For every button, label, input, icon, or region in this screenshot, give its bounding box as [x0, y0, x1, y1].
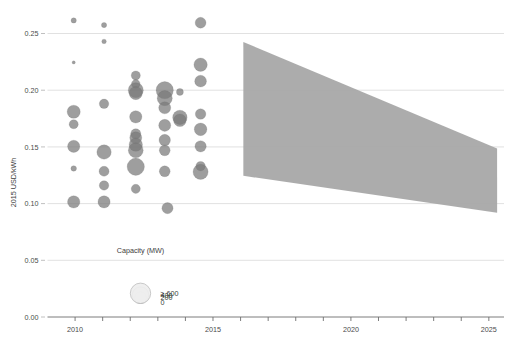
legend-bubble-3 [130, 283, 150, 303]
data-bubble [195, 75, 207, 87]
y-tick-label-0.25: 0.25 [25, 29, 39, 38]
data-bubble [162, 203, 173, 214]
legend-title: Capacity (MW) [117, 246, 165, 255]
data-bubble [99, 166, 109, 176]
data-bubble [128, 143, 143, 158]
x-tick-label-2025: 2025 [481, 325, 497, 334]
projection-band-area [243, 42, 497, 213]
data-bubble [127, 158, 144, 175]
data-bubble [99, 99, 109, 109]
x-axis: 2010201520202025 [48, 317, 505, 334]
y-tick-label-0.20: 0.20 [25, 86, 39, 95]
data-bubble [98, 196, 110, 208]
data-bubble [99, 181, 109, 191]
data-bubble [129, 86, 142, 99]
data-bubble [102, 39, 107, 44]
bubble-chart: 2010201520202025 0.000.050.100.150.200.2… [0, 0, 512, 358]
x-tick-label-2020: 2020 [343, 325, 359, 334]
data-bubble [195, 141, 206, 152]
size-legend: Capacity (MW)0200400≥ 600 [117, 246, 179, 308]
x-tick-label-2010: 2010 [67, 325, 83, 334]
bubble-layer [67, 17, 208, 213]
data-bubble [101, 22, 106, 27]
x-tick-label-2015: 2015 [205, 325, 221, 334]
data-bubble [68, 196, 80, 208]
data-bubble [159, 134, 170, 145]
data-bubble [131, 71, 140, 80]
projection-band [243, 42, 497, 213]
data-bubble [71, 166, 77, 172]
data-bubble [195, 109, 206, 120]
legend-label-3: ≥ 600 [161, 289, 179, 298]
data-bubble [159, 145, 170, 156]
data-bubble [174, 114, 187, 127]
data-bubble [131, 184, 140, 193]
chart-page: 2010201520202025 0.000.050.100.150.200.2… [0, 0, 512, 358]
data-bubble [71, 18, 76, 23]
data-bubble [130, 111, 142, 123]
data-bubble [195, 17, 206, 28]
y-axis-labels: 0.000.050.100.150.200.25 [25, 29, 46, 321]
y-tick-label-0.00: 0.00 [25, 313, 39, 322]
data-bubble [97, 145, 111, 159]
data-bubble [68, 140, 80, 152]
data-bubble [67, 105, 80, 118]
y-axis-title: 2015 USD/kWh [9, 158, 18, 208]
data-bubble [159, 166, 170, 177]
data-bubble [193, 164, 208, 179]
data-bubble [69, 120, 78, 129]
data-bubble [194, 123, 207, 136]
y-tick-label-0.10: 0.10 [25, 199, 39, 208]
data-bubble [176, 88, 183, 95]
y-axis-title: 2015 USD/kWh [9, 158, 18, 208]
data-bubble [159, 102, 171, 114]
data-bubble [72, 61, 75, 64]
data-bubble [159, 119, 171, 131]
y-tick-label-0.05: 0.05 [25, 256, 39, 265]
data-bubble [194, 58, 207, 71]
y-tick-label-0.15: 0.15 [25, 143, 39, 152]
